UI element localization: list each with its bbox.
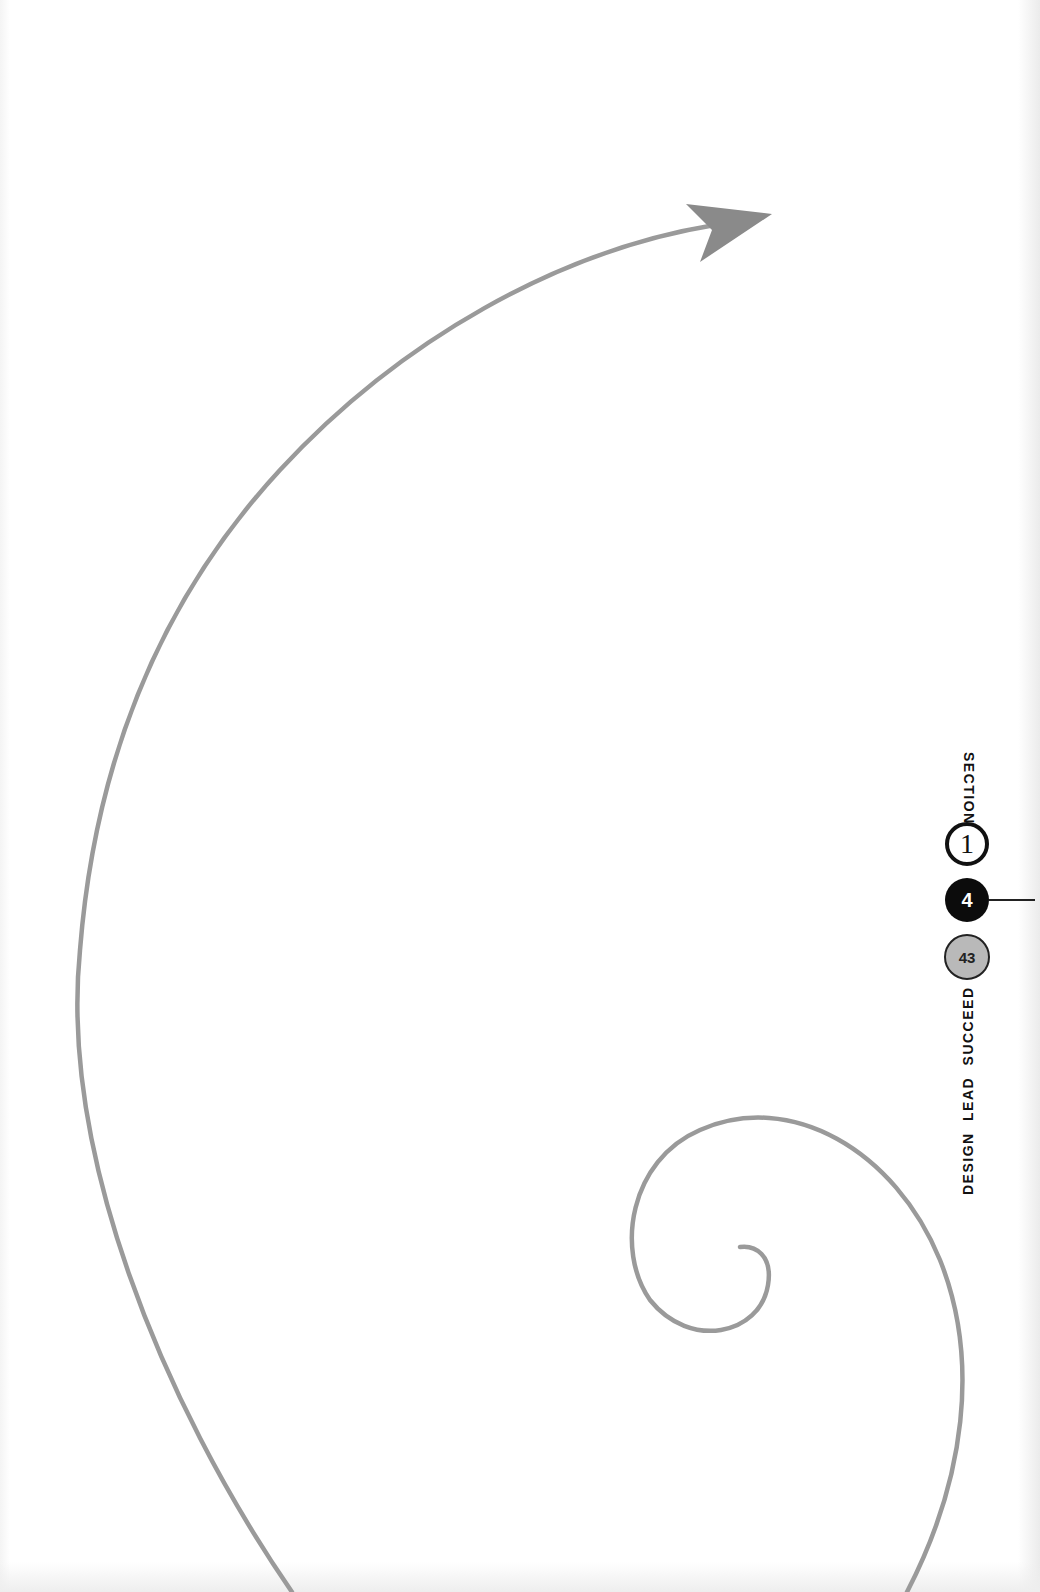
spiral-icon bbox=[632, 1118, 963, 1592]
section-number: 1 bbox=[960, 828, 974, 860]
page-number-badge: 43 bbox=[944, 934, 990, 980]
section-number-badge: 1 bbox=[945, 822, 989, 866]
decorative-illustration bbox=[0, 0, 1040, 1592]
section-label: SECTION bbox=[961, 752, 977, 825]
page-number: 43 bbox=[959, 949, 976, 966]
arrow-head-icon bbox=[686, 204, 772, 262]
chapter-number: 4 bbox=[961, 889, 972, 912]
chapter-number-badge: 4 bbox=[945, 878, 989, 922]
chapter-connector-line bbox=[989, 899, 1035, 901]
curved-arrow-line bbox=[77, 225, 715, 1592]
book-title: DESIGN LEAD SUCCEED bbox=[960, 986, 976, 1195]
